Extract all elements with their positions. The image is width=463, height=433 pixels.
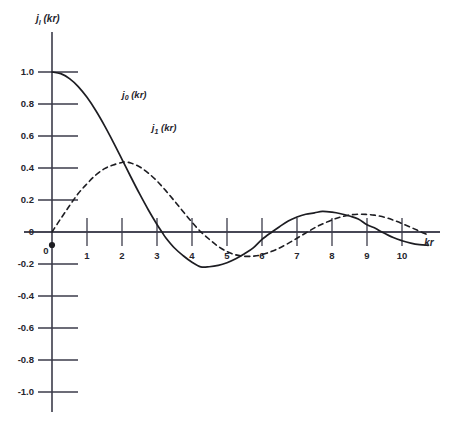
y-tick-label-0.4: 0.4: [21, 162, 35, 173]
chart-labels-layer: 1.00.80.60.40.20-0.2-0.4-0.6-0.8-1.0 123…: [0, 0, 463, 433]
x-tick-label-4: 4: [189, 250, 195, 261]
series-label-j1: j1 (kr): [150, 122, 177, 135]
y-tick-label-0.8: 0.8: [21, 98, 34, 109]
x-tick-label-group: 12345678910: [84, 250, 407, 261]
series-label-j1-argument: (kr): [158, 122, 176, 133]
x-tick-label-1: 1: [84, 250, 90, 261]
y-tick-label-0: 0: [29, 226, 34, 237]
x-tick-label-2: 2: [119, 250, 124, 261]
y-axis-title: jl (kr): [34, 13, 60, 26]
y-tick-label-group: 1.00.80.60.40.20-0.2-0.4-0.6-0.8-1.0: [18, 66, 35, 397]
series-label-j0-argument: (kr): [129, 89, 147, 100]
bessel-function-chart: 1.00.80.60.40.20-0.2-0.4-0.6-0.8-1.0 123…: [0, 0, 463, 433]
y-tick-label-0.2: 0.2: [21, 194, 34, 205]
y-tick-label-1.0: 1.0: [21, 66, 34, 77]
x-tick-label-5: 5: [224, 250, 230, 261]
x-tick-label-3: 3: [154, 250, 159, 261]
x-tick-label-8: 8: [329, 250, 334, 261]
x-tick-label-7: 7: [294, 250, 299, 261]
y-tick-label--0.6: -0.6: [18, 322, 34, 333]
y-tick-label-0.6: 0.6: [21, 130, 34, 141]
y-axis-title-argument: (kr): [41, 13, 61, 24]
x-tick-label-6: 6: [259, 250, 264, 261]
y-tick-label--0.4: -0.4: [18, 290, 35, 301]
y-tick-label--0.2: -0.2: [18, 258, 34, 269]
x-tick-label-10: 10: [397, 250, 408, 261]
series-label-j0: j0 (kr): [120, 89, 147, 102]
y-tick-label--1.0: -1.0: [18, 386, 34, 397]
origin-tick-label: 0: [43, 245, 48, 256]
x-tick-label-9: 9: [364, 250, 369, 261]
y-tick-label--0.8: -0.8: [18, 354, 34, 365]
x-axis-title: kr: [424, 237, 435, 248]
